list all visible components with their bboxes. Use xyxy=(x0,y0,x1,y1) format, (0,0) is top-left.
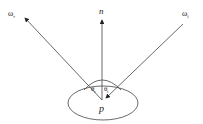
reflection-diagram: n ωr ωi θr θi p xyxy=(0,0,203,124)
normal-label: n xyxy=(99,6,104,16)
incident-ray xyxy=(106,24,183,98)
incident-label: ωi xyxy=(182,9,189,19)
reflected-label: ωr xyxy=(8,9,15,19)
point-label: p xyxy=(98,103,104,114)
